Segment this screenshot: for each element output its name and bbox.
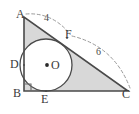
measure-label-fc: 6 bbox=[96, 47, 101, 57]
vertex-label-c: C bbox=[122, 88, 130, 100]
tangent-label-d: D bbox=[10, 58, 19, 70]
center-point-o bbox=[45, 63, 49, 67]
center-label-o: O bbox=[51, 59, 60, 71]
tangent-label-f: F bbox=[65, 28, 72, 40]
geometry-figure: A B C D E F O 4 6 bbox=[0, 0, 139, 114]
vertex-label-b: B bbox=[13, 87, 21, 99]
tangent-point-d bbox=[23, 64, 25, 66]
measure-label-af: 4 bbox=[44, 13, 49, 23]
tangent-label-e: E bbox=[41, 93, 48, 105]
vertex-label-a: A bbox=[16, 8, 25, 20]
